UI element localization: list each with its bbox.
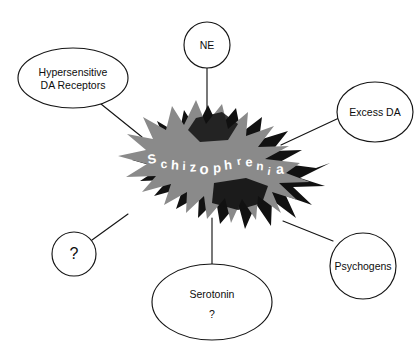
starburst-letter-3: i	[182, 159, 186, 173]
node-label-hypersensitive-da-receptors-line1: Hypersensitive	[39, 66, 108, 78]
node-label-psychogens: Psychogens	[334, 260, 391, 272]
node-excess-da[interactable]: Excess DA	[337, 82, 413, 142]
node-shape-serotonin[interactable]	[152, 264, 272, 340]
node-label-hypersensitive-da-receptors-line2: DA Receptors	[41, 79, 106, 91]
connector-unknown-left	[92, 214, 128, 240]
starburst-letter-12: a	[276, 161, 285, 177]
node-label-ne: NE	[200, 39, 215, 51]
node-label-serotonin-line2: ?	[209, 308, 215, 320]
node-hypersensitive-da-receptors[interactable]: Hypersensitive DA Receptors	[18, 48, 128, 108]
starburst-letter-2: h	[171, 157, 180, 173]
concept-diagram: S c h i z o p h r e n i a Hypersensitive…	[0, 0, 419, 350]
starburst-letter-5: o	[199, 160, 209, 177]
starburst-letter-10: n	[256, 159, 265, 174]
connector-hypersensitive-da-receptors	[101, 104, 142, 137]
connector-excess-da	[281, 118, 339, 145]
node-label-excess-da: Excess DA	[349, 106, 400, 118]
diagram-canvas: S c h i z o p h r e n i a Hypersensitive…	[0, 0, 419, 350]
connector-psychogens	[283, 221, 333, 241]
node-ne[interactable]: NE	[184, 22, 230, 68]
node-psychogens[interactable]: Psychogens	[330, 233, 396, 299]
node-serotonin[interactable]: Serotonin ?	[152, 264, 272, 340]
node-label-serotonin-line1: Serotonin	[190, 288, 235, 300]
node-label-unknown-left: ?	[70, 245, 79, 262]
node-unknown-left[interactable]: ?	[52, 232, 96, 276]
starburst-letter-6: p	[213, 160, 222, 175]
schizophrenia-starburst: S c h i z o p h r e n i a	[118, 100, 330, 229]
starburst-letter-7: h	[223, 157, 233, 173]
starburst-letter-9: e	[245, 154, 253, 169]
starburst-letter-1: c	[160, 157, 168, 171]
